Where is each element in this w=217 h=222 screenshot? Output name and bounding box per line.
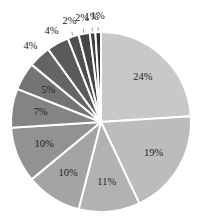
slice-label: 7% <box>34 106 48 117</box>
slice-label: 10% <box>59 167 79 178</box>
leader-line <box>72 32 73 36</box>
slice-label: 5% <box>41 84 55 95</box>
slice-label: 10% <box>34 138 54 149</box>
slice-label: 19% <box>144 147 164 158</box>
slice-label: 4% <box>23 40 37 51</box>
pie-chart: 24%19%11%10%10%7%5%4%4%2%2%1%1% <box>0 0 217 222</box>
leader-line <box>83 29 84 33</box>
slice-label: 4% <box>44 25 58 36</box>
slice-label: 1% <box>91 10 105 21</box>
slice-label: 11% <box>97 176 116 187</box>
slice-label: 24% <box>133 71 153 82</box>
